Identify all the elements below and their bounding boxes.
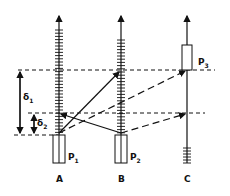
column-c: P3 C: [182, 16, 209, 184]
delta2-interval: δ2: [34, 115, 47, 133]
delta1-label: δ1: [23, 92, 33, 104]
message-b-to-c: [121, 114, 185, 133]
timing-diagram: δ1 δ2 P1 A P2 B P3 C: [0, 0, 230, 196]
message-a-to-c: [59, 71, 185, 133]
column-a-label: A: [56, 174, 63, 184]
delta1-interval: δ1: [20, 72, 33, 133]
delta2-label: δ2: [37, 118, 47, 130]
message-a-to-b: [59, 72, 119, 133]
processor-p3-label: P3: [198, 57, 209, 69]
processor-p3-box: [182, 45, 192, 70]
column-c-label: C: [184, 174, 191, 184]
processor-p2-label: P2: [130, 152, 141, 164]
column-a: P1 A: [53, 16, 79, 184]
processor-p1-label: P1: [68, 152, 79, 164]
column-b: P2 B: [115, 16, 141, 184]
column-b-label: B: [118, 174, 125, 184]
messages: [59, 71, 185, 133]
